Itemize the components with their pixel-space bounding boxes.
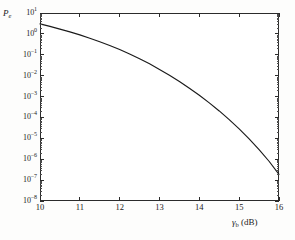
y-axis-minor-tick-right — [277, 147, 279, 148]
y-axis-minor-tick — [40, 121, 42, 122]
y-axis-minor-tick — [40, 61, 42, 62]
y-axis-minor-tick-right — [277, 79, 279, 80]
y-axis-minor-tick-right — [277, 182, 279, 183]
y-axis-minor-tick — [40, 56, 42, 57]
y-axis-minor-tick-right — [277, 164, 279, 165]
y-axis-minor-tick-right — [277, 63, 279, 64]
y-axis-minor-tick-right — [277, 39, 279, 40]
y-axis-minor-tick-right — [277, 132, 279, 133]
figure-root: Pe 10110010−110−210−310−410−510−610−710−… — [0, 0, 295, 240]
y-axis-minor-tick-right — [277, 111, 279, 112]
x-axis-tick-label: 12 — [110, 203, 130, 212]
x-axis-tick-label: 11 — [70, 203, 90, 212]
y-axis-minor-tick-right — [277, 181, 279, 182]
y-axis-minor-tick — [40, 100, 42, 101]
y-axis-minor-tick-right — [277, 80, 279, 81]
y-axis-minor-tick — [40, 183, 42, 184]
x-axis-tick — [159, 197, 160, 201]
y-axis-minor-tick-right — [277, 21, 279, 22]
y-axis-minor-tick — [40, 59, 42, 60]
y-axis-minor-tick-right — [277, 168, 279, 169]
x-axis-tick-top — [239, 13, 240, 17]
y-axis-minor-tick — [40, 126, 42, 127]
y-axis-minor-tick — [40, 128, 42, 129]
y-axis-tick-label: 10−6 — [23, 155, 37, 163]
y-axis-minor-tick-right — [277, 14, 279, 15]
y-axis-minor-tick-right — [277, 82, 279, 83]
y-axis-minor-tick-right — [277, 18, 279, 19]
y-axis-minor-tick-right — [277, 90, 279, 91]
y-axis-minor-tick — [40, 185, 42, 186]
x-axis-tick — [239, 197, 240, 201]
y-axis-minor-tick-right — [277, 78, 279, 79]
y-axis-minor-tick — [40, 98, 42, 99]
y-axis-tick-label: 10−7 — [23, 176, 37, 184]
y-axis-minor-tick — [40, 124, 42, 125]
y-axis-minor-tick — [40, 77, 42, 78]
y-axis-minor-tick-right — [277, 183, 279, 184]
y-axis-minor-tick-right — [277, 145, 279, 146]
y-axis-minor-tick-right — [277, 140, 279, 141]
y-axis-minor-tick — [40, 78, 42, 79]
y-axis-minor-tick — [40, 15, 42, 16]
y-axis-minor-tick — [40, 21, 42, 22]
x-axis-tick-label: 15 — [229, 203, 249, 212]
y-axis-minor-tick — [40, 66, 42, 67]
y-axis-minor-tick — [40, 162, 42, 163]
y-axis-minor-tick-right — [277, 149, 279, 150]
y-axis-minor-tick — [40, 181, 42, 182]
x-axis-title-subscript: b — [236, 221, 239, 228]
y-axis-minor-tick — [40, 84, 42, 85]
y-axis-minor-tick — [40, 16, 42, 17]
y-axis-minor-tick-right — [277, 19, 279, 20]
x-axis-tick — [119, 197, 120, 201]
y-axis-minor-tick-right — [277, 185, 279, 186]
y-axis-tick-label: 10−4 — [23, 113, 37, 121]
y-axis-minor-tick-right — [277, 195, 279, 196]
y-axis-minor-tick — [40, 58, 42, 59]
y-axis-minor-tick — [40, 18, 42, 19]
y-axis-minor-tick — [40, 118, 42, 119]
y-axis-minor-tick — [40, 36, 42, 37]
x-axis-title-unit: (dB) — [241, 217, 258, 227]
y-axis-minor-tick-right — [277, 107, 279, 108]
y-axis-minor-tick — [40, 105, 42, 106]
y-axis-minor-tick-right — [277, 186, 279, 187]
y-axis-minor-tick-right — [277, 28, 279, 29]
y-axis-minor-tick-right — [277, 139, 279, 140]
y-axis-minor-tick — [40, 90, 42, 91]
x-axis-title: γb (dB) — [232, 218, 258, 227]
y-axis-minor-tick — [40, 80, 42, 81]
y-axis-minor-tick-right — [277, 42, 279, 43]
y-axis-minor-tick-right — [277, 35, 279, 36]
y-axis-minor-tick — [40, 79, 42, 80]
x-axis-tick-top — [199, 13, 200, 17]
y-axis-minor-tick — [40, 48, 42, 49]
y-axis-minor-tick — [40, 160, 42, 161]
y-axis-minor-tick — [40, 122, 42, 123]
y-axis-minor-tick-right — [277, 170, 279, 171]
x-axis-tick-top — [119, 13, 120, 17]
y-axis-minor-tick — [40, 119, 42, 120]
y-axis-minor-tick-right — [277, 124, 279, 125]
y-axis-minor-tick — [40, 24, 42, 25]
y-axis-minor-tick — [40, 164, 42, 165]
y-axis-tick-label: 10−5 — [23, 134, 37, 142]
y-axis-minor-tick-right — [277, 166, 279, 167]
x-axis-tick — [199, 197, 200, 201]
y-axis-minor-tick-right — [277, 100, 279, 101]
y-axis-minor-tick — [40, 188, 42, 189]
y-axis-minor-tick — [40, 40, 42, 41]
ber-curve-svg — [40, 13, 279, 201]
y-axis-minor-tick — [40, 39, 42, 40]
y-axis-minor-tick — [40, 182, 42, 183]
y-axis-minor-tick-right — [277, 160, 279, 161]
y-axis-minor-tick — [40, 111, 42, 112]
y-axis-minor-tick-right — [277, 161, 279, 162]
y-axis-minor-tick — [40, 145, 42, 146]
y-axis-minor-tick — [40, 166, 42, 167]
y-axis-minor-tick-right — [277, 15, 279, 16]
y-axis-tick-label: 100 — [26, 30, 37, 38]
y-axis-minor-tick-right — [277, 174, 279, 175]
y-axis-minor-tick-right — [277, 61, 279, 62]
